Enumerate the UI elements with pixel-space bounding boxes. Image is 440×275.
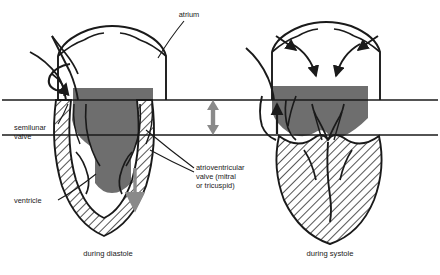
label-semilunar-valve-line2: valve <box>14 132 31 141</box>
label-ventricle: ventricle <box>14 196 42 205</box>
heart-cycle-diagram: during diastole <box>0 0 440 275</box>
label-atrium: atrium <box>179 10 200 19</box>
label-semilunar-valve-line1: semilunar <box>14 123 47 132</box>
caption-diastole: during diastole <box>83 249 132 258</box>
label-av-valve-line2: valve (mitral <box>196 172 236 181</box>
label-av-valve-line1: atrioventricular <box>196 163 245 172</box>
blood-atrium-systole <box>272 86 368 100</box>
label-av-valve-line3: or tricuspid) <box>196 181 235 190</box>
diagram-canvas: during diastole <box>0 0 440 275</box>
caption-systole: during systole <box>307 249 354 258</box>
